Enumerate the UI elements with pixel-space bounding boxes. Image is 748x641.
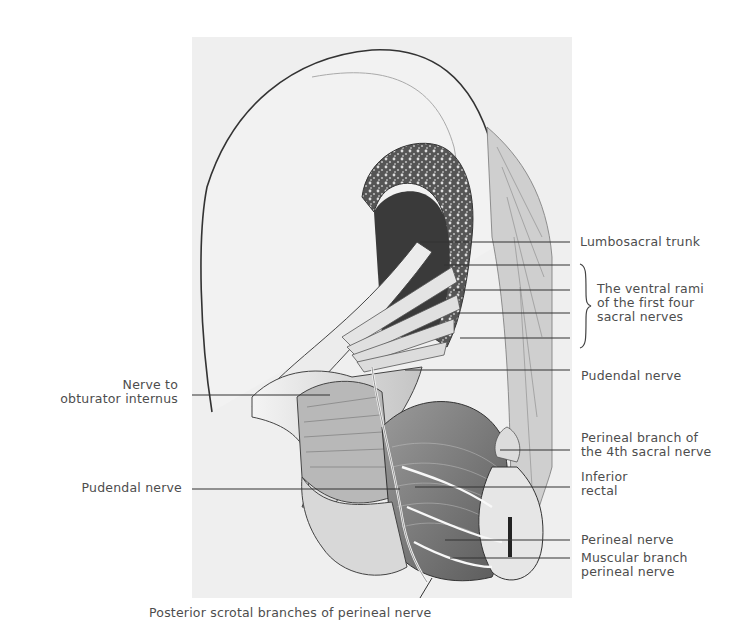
label-perineal-nerve: Perineal nerve [581, 533, 674, 547]
label-inferior-rectal: Inferior rectal [581, 470, 628, 498]
label-perineal-branch-4th-sacral: Perineal branch of the 4th sacral nerve [581, 431, 711, 459]
label-pudendal-nerve-right: Pudendal nerve [581, 369, 681, 383]
pelvis-drawing [192, 37, 572, 598]
label-pudendal-nerve-left: Pudendal nerve [82, 481, 182, 495]
label-ventral-rami: The ventral rami of the first four sacra… [597, 282, 704, 324]
label-posterior-scrotal-branches: Posterior scrotal branches of perineal n… [149, 605, 431, 620]
label-lumbosacral-trunk: Lumbosacral trunk [580, 235, 700, 249]
brace-icon [578, 262, 592, 350]
label-muscular-branch: Muscular branch perineal nerve [581, 551, 688, 579]
anatomical-illustration [192, 37, 572, 598]
label-nerve-to-obturator-internus: Nerve to obturator internus [60, 378, 178, 406]
